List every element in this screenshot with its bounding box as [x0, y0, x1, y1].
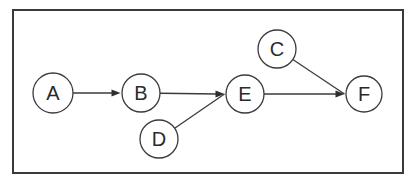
node-A-label: A — [46, 82, 60, 104]
arrowhead-A-B — [112, 90, 121, 97]
node-D-label: D — [152, 128, 166, 150]
graph-diagram: ABCDEF — [0, 0, 410, 182]
node-C-label: C — [270, 38, 284, 60]
edge-C-F — [293, 60, 345, 94]
edge-D-E — [175, 94, 225, 128]
scanned-figure: ABCDEF — [0, 0, 410, 182]
node-B-label: B — [134, 82, 147, 104]
node-E-label: E — [238, 83, 251, 105]
node-F-label: F — [358, 83, 370, 105]
edge-B-E — [160, 93, 218, 94]
